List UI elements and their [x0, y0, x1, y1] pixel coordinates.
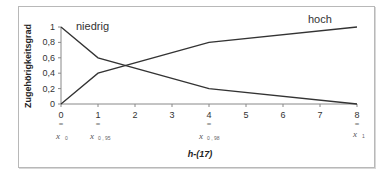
svg-text:1: 1: [362, 133, 365, 139]
y-tick-label: 0,6: [42, 53, 55, 63]
series-label-niedrig: niedrig: [76, 20, 109, 32]
svg-text:x: x: [55, 131, 60, 141]
membership-chart: 0 0,2 0,4 0,6 0,8 1 0 1 2 3 4 5 6 7 8 = …: [0, 0, 390, 184]
series-hoch-line: [61, 27, 357, 104]
x-tick-label: 7: [317, 110, 322, 120]
x-annotation-1: = x 0 , 95: [89, 120, 111, 141]
x-tick-label: 2: [132, 110, 137, 120]
x-tick-label: 4: [206, 110, 211, 120]
x-annotation-8: = x 1: [352, 120, 365, 139]
y-tick-label: 0,4: [42, 68, 55, 78]
x-axis-title: h-(17): [188, 149, 213, 159]
x-tick-labels: 0 1 2 3 4 5 6 7 8: [58, 110, 359, 120]
svg-text:x: x: [89, 131, 94, 141]
svg-text:0 , 98: 0 , 98: [207, 135, 220, 141]
svg-text:=: =: [59, 120, 64, 129]
y-tick-labels: 0 0,2 0,4 0,6 0,8 1: [42, 22, 55, 109]
x-tick-label: 0: [58, 110, 63, 120]
y-tick-label: 0,8: [42, 37, 55, 47]
x-tick-label: 5: [243, 110, 248, 120]
y-axis-title: Zugehörigkeitsgrad: [23, 24, 33, 108]
x-tick-label: 6: [280, 110, 285, 120]
svg-text:=: =: [207, 120, 212, 129]
x-tick-label: 3: [169, 110, 174, 120]
series-label-hoch: hoch: [308, 13, 332, 25]
svg-text:x: x: [352, 129, 357, 139]
x-tick-label: 8: [354, 110, 359, 120]
y-tick-label: 0: [50, 99, 55, 109]
svg-text:0 , 95: 0 , 95: [98, 135, 111, 141]
svg-text:x: x: [198, 131, 203, 141]
x-annotation-4: = x 0 , 98: [198, 120, 220, 141]
svg-text:=: =: [96, 120, 101, 129]
svg-text:0: 0: [65, 135, 68, 141]
y-tick-label: 0,2: [42, 84, 55, 94]
series-niedrig-line: [61, 27, 357, 104]
svg-text:=: =: [355, 120, 360, 129]
x-tick-label: 1: [95, 110, 100, 120]
y-tick-label: 1: [50, 22, 55, 32]
x-annotation-0: = x 0: [55, 120, 68, 141]
